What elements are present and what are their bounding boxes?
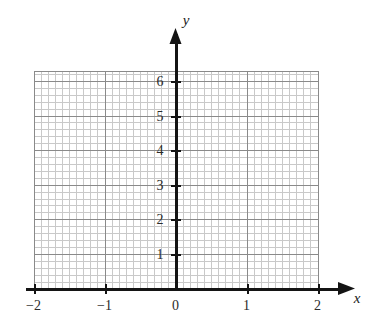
y-tick-label: 4 — [157, 143, 164, 158]
figure-background — [0, 0, 376, 318]
x-tick-label: −2 — [26, 298, 41, 313]
x-tick-label: 0 — [172, 298, 179, 313]
coordinate-plane-figure: −2−1012 123456 x y — [0, 0, 376, 318]
x-tick-label: −1 — [97, 298, 112, 313]
y-tick-label: 6 — [157, 74, 164, 89]
x-tick-label: 2 — [314, 298, 321, 313]
y-axis-label: y — [181, 12, 190, 28]
y-tick-label: 5 — [157, 109, 164, 124]
coordinate-grid-svg: −2−1012 123456 x y — [0, 0, 376, 318]
y-tick-label: 1 — [157, 247, 164, 262]
x-tick-label: 1 — [243, 298, 250, 313]
y-tick-label: 2 — [157, 212, 164, 227]
x-axis-label: x — [353, 290, 361, 306]
y-tick-label: 3 — [157, 178, 164, 193]
